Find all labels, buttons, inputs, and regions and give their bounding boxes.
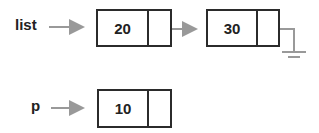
node-10: 10 xyxy=(97,89,172,128)
node-next-field xyxy=(149,11,170,45)
pointer-label-list: list xyxy=(15,16,37,33)
node-30: 30 xyxy=(206,9,280,47)
node-data-field: 30 xyxy=(208,11,258,45)
node-data-field: 10 xyxy=(99,91,149,126)
node-data-field: 20 xyxy=(98,11,149,45)
node-next-field xyxy=(258,11,278,45)
node-next-field xyxy=(149,91,170,126)
node-20: 20 xyxy=(96,9,172,47)
pointer-label-p: p xyxy=(31,97,40,114)
